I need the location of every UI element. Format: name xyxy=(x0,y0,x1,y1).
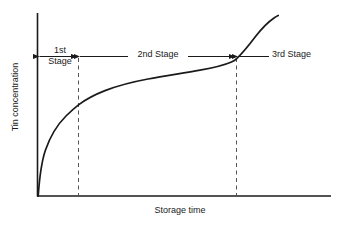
stage-1-annotation-line-2: Stage xyxy=(48,56,72,66)
tin-concentration-stage-chart: Tin concentration Storage time 1st Stage… xyxy=(0,0,343,228)
chart-canvas xyxy=(0,0,343,228)
stage-1-annotation: 1st Stage xyxy=(44,45,76,66)
x-axis-label: Storage time xyxy=(120,205,240,215)
tin-concentration-curve xyxy=(38,16,278,197)
stage-2-annotation: 2nd Stage xyxy=(128,49,188,59)
stage-1-annotation-line-1: 1st xyxy=(54,45,66,55)
stage-3-annotation: 3rd Stage xyxy=(272,49,311,59)
y-axis-label: Tin concentration xyxy=(10,37,20,157)
